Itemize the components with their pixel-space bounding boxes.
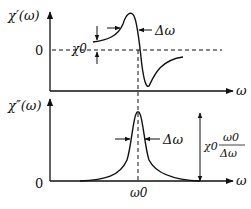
top-zero-label: 0 bbox=[35, 43, 43, 58]
bottom-width-label: Δω bbox=[162, 132, 183, 147]
susceptibility-diagram: χ′(ω) 0 χ0 Δω ω χ″(ω) 0 Δω ω0 ω χ0 ω0 Δω bbox=[0, 0, 251, 209]
peak-label-denominator: Δω bbox=[219, 147, 237, 160]
bottom-plot: χ″(ω) 0 Δω ω0 ω χ0 ω0 Δω bbox=[7, 98, 247, 200]
omega0-label: ω0 bbox=[130, 186, 148, 200]
top-x-label: ω bbox=[236, 83, 247, 98]
top-plot: χ′(ω) 0 χ0 Δω ω bbox=[7, 8, 247, 98]
top-y-label: χ′(ω) bbox=[7, 8, 40, 23]
top-width-label: Δω bbox=[154, 23, 175, 38]
bottom-x-label: ω bbox=[236, 173, 247, 188]
chi0-label: χ0 bbox=[71, 42, 87, 56]
peak-label-numerator: ω0 bbox=[223, 131, 239, 144]
bottom-y-label: χ″(ω) bbox=[7, 98, 41, 113]
bottom-zero-label: 0 bbox=[35, 176, 43, 191]
peak-label-prefix: χ0 bbox=[203, 140, 218, 153]
